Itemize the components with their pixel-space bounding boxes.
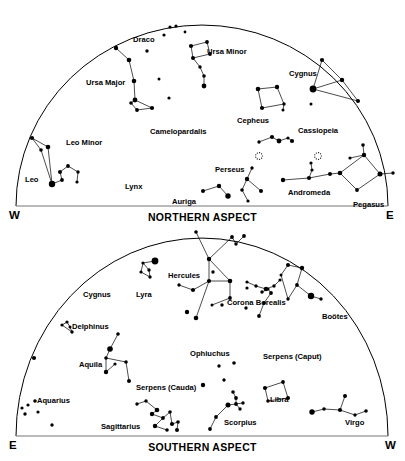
star-dot (277, 139, 282, 144)
star-dot (141, 261, 144, 264)
star-dot (286, 263, 290, 267)
constellation-line (116, 48, 129, 60)
star-dot (300, 266, 304, 270)
star-dot (185, 310, 189, 314)
constellation-line (313, 89, 358, 101)
constellation-line (126, 362, 129, 381)
constellation-line (342, 80, 358, 101)
star-dot (150, 412, 154, 416)
star-dot (75, 180, 78, 183)
constellation-label-cygnus: Cygnus (83, 291, 111, 299)
star-dot (32, 356, 36, 360)
constellation-line (196, 281, 209, 318)
constellation-label-camelopardalis: Camelopardalis (150, 128, 207, 136)
constellation-label-cygnus: Cygnus (289, 70, 317, 78)
star-dot (234, 242, 237, 245)
star-dot (295, 283, 299, 287)
constellation-label-auriga: Auriga (172, 198, 196, 206)
constellation-line (242, 190, 248, 201)
constellation-label-andromeda: Andromeda (288, 189, 330, 197)
star-dot (309, 161, 312, 164)
constellation-label-ursa-minor: Ursa Minor (207, 48, 247, 56)
constellation-label-hercules: Hercules (168, 272, 200, 280)
star-dot (282, 109, 285, 112)
northern-compass-west: W (9, 209, 20, 221)
constellation-line (258, 89, 262, 108)
constellation-line (258, 87, 277, 89)
star-dot (127, 379, 131, 383)
constellation-label-ursa-major: Ursa Major (86, 79, 125, 87)
star-dot (158, 78, 161, 81)
star-dot (207, 257, 211, 261)
star-dot (338, 171, 343, 176)
constellation-label-perseus: Perseus (215, 166, 245, 174)
star-dot (320, 58, 324, 62)
star-dot (260, 106, 264, 110)
star-dot (307, 176, 311, 180)
star-dot (256, 87, 261, 92)
star-dot (202, 74, 206, 78)
constellation-label-cassiopeia: Cassiopeia (298, 127, 338, 135)
star-dot (275, 85, 279, 89)
star-dot (245, 280, 248, 283)
star-dot (153, 424, 157, 428)
star-dot (309, 409, 314, 414)
star-dot (113, 362, 116, 365)
star-dot (232, 361, 236, 365)
star-dot (124, 360, 128, 364)
star-dot (245, 177, 249, 181)
northern-compass-east: E (386, 209, 394, 221)
northern-aspect-chart: DracoUrsa MinorCygnusUrsa MajorCepheusCa… (0, 0, 405, 230)
star-dot (20, 406, 23, 409)
star-dot (145, 49, 148, 52)
northern-sky-map (0, 0, 405, 230)
star-dot (282, 102, 285, 105)
constellation-line (134, 81, 135, 100)
constellation-line (313, 80, 342, 89)
star-dot (168, 410, 172, 414)
star-dot (241, 401, 244, 404)
star-dot (228, 279, 233, 284)
star-dot (174, 24, 177, 27)
constellation-label-lynx: Lynx (125, 183, 142, 191)
star-dot (176, 420, 180, 424)
star-dot (191, 56, 195, 60)
southern-aspect-chart: HerculesLyraCygnusCorona BorealisBoötesD… (0, 230, 405, 461)
star-dot (217, 364, 220, 367)
star-dot (198, 65, 201, 68)
star-dot (129, 101, 133, 105)
constellation-line (191, 42, 207, 46)
star-dot (211, 270, 214, 273)
star-dot (155, 408, 160, 413)
constellation-line (364, 155, 380, 174)
star-dot (170, 422, 174, 426)
star-dot (132, 79, 137, 84)
constellation-label-delphinus: Delphinus (72, 323, 109, 331)
constellation-line (216, 405, 228, 417)
star-dot (353, 413, 356, 416)
star-dot (338, 408, 342, 412)
horizon-dome-arc (16, 238, 388, 436)
star-dot (281, 380, 285, 384)
star-dot (310, 86, 317, 93)
constellation-line (340, 173, 357, 190)
constellation-label-scorpius: Scorpius (224, 419, 257, 427)
star-dot (36, 410, 39, 413)
star-dot (254, 284, 257, 287)
star-dot (310, 168, 313, 171)
constellation-line (283, 178, 309, 180)
star-dot (46, 145, 51, 150)
star-dot (76, 170, 79, 173)
star-dot (238, 407, 241, 410)
star-dot (348, 156, 351, 159)
star-dot (250, 166, 253, 169)
star-dot (234, 396, 238, 400)
star-dot (104, 356, 108, 360)
constellation-line (324, 409, 340, 410)
constellation-label-sagittarius: Sagittarius (101, 423, 140, 431)
star-dot (226, 403, 231, 408)
star-dot (217, 184, 221, 188)
constellation-line (340, 396, 345, 410)
constellation-line (196, 232, 209, 259)
star-dot (281, 178, 285, 182)
